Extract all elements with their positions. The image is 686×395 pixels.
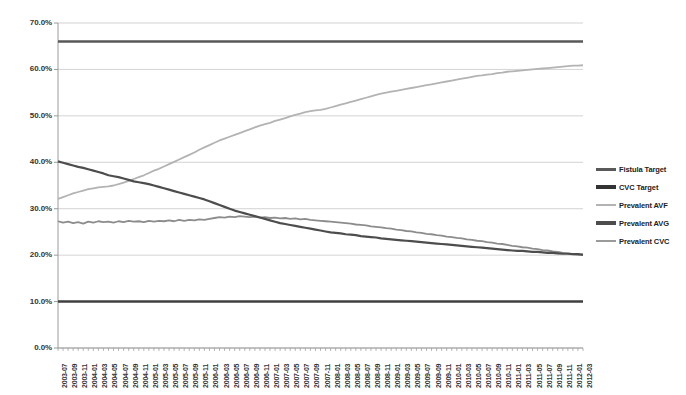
x-tick-label: 2008-05 [354,364,361,388]
legend-item-label: Prevalent AVF [619,201,668,210]
y-tick-label: 60.0% [4,64,52,73]
x-tick-label: 2008-09 [374,364,381,388]
x-tick-label: 2010-11 [505,364,512,388]
legend-item-prevalent-cvc[interactable]: Prevalent CVC [596,232,686,250]
y-tick-label: 70.0% [4,18,52,27]
chart-plot-area [0,0,686,395]
x-tick-label: 2004-01 [91,364,98,388]
x-tick-label: 2007-03 [283,364,290,388]
x-tick-label: 2011-05 [536,364,543,388]
x-tick-label: 2003-09 [71,364,78,388]
legend-item-label: CVC Target [619,183,658,192]
x-tick-label: 2007-01 [273,364,280,388]
x-tick-label: 2009-03 [404,364,411,388]
x-tick-label: 2011-01 [515,364,522,388]
x-tick-label: 2006-09 [253,364,260,388]
x-tick-label: 2004-05 [111,364,118,388]
series-line-prevalent-cvc [58,161,583,254]
x-tick-label: 2005-05 [172,364,179,388]
x-tick-label: 2010-01 [455,364,462,388]
x-tick-label: 2012-01 [576,364,583,388]
x-tick-label: 2007-07 [303,364,310,388]
x-tick-label: 2012-03 [586,364,593,388]
x-tick-label: 2003-07 [61,364,68,388]
x-tick-label: 2006-07 [243,364,250,388]
legend-item-label: Fistula Target [619,165,666,174]
series-line-prevalent-avf [58,65,583,199]
x-tick-label: 2009-07 [424,364,431,388]
chart-legend: Fistula TargetCVC TargetPrevalent AVFPre… [596,160,686,250]
x-tick-label: 2010-09 [495,364,502,388]
legend-item-label: Prevalent CVC [619,237,669,246]
y-tick-label: 20.0% [4,250,52,259]
legend-swatch-icon [596,185,616,188]
legend-item-fistula-target[interactable]: Fistula Target [596,160,686,178]
x-tick-label: 2009-01 [394,364,401,388]
chart-container: 0.0%10.0%20.0%30.0%40.0%50.0%60.0%70.0% … [0,0,686,395]
x-tick-label: 2005-03 [162,364,169,388]
x-tick-label: 2005-09 [192,364,199,388]
x-tick-label: 2006-01 [212,364,219,388]
x-tick-label: 2010-07 [485,364,492,388]
y-tick-label: 0.0% [4,343,52,352]
legend-item-prevalent-avg[interactable]: Prevalent AVG [596,214,686,232]
x-tick-label: 2004-11 [142,364,149,388]
x-tick-label: 2007-05 [293,364,300,388]
x-tick-label: 2005-07 [182,364,189,388]
x-tick-label: 2009-09 [435,364,442,388]
x-tick-label: 2003-11 [81,364,88,388]
x-tick-label: 2006-05 [233,364,240,388]
x-tick-label: 2006-11 [263,364,270,388]
x-tick-label: 2004-03 [101,364,108,388]
y-tick-label: 10.0% [4,297,52,306]
x-tick-label: 2008-03 [344,364,351,388]
legend-swatch-icon [596,168,616,171]
legend-swatch-icon [596,221,616,224]
x-tick-label: 2009-05 [414,364,421,388]
x-tick-label: 2010-03 [465,364,472,388]
y-tick-label: 50.0% [4,111,52,120]
x-tick-label: 2004-07 [122,364,129,388]
x-tick-label: 2008-07 [364,364,371,388]
legend-item-prevalent-avf[interactable]: Prevalent AVF [596,196,686,214]
x-tick-label: 2005-11 [202,364,209,388]
y-tick-label: 30.0% [4,204,52,213]
x-tick-label: 2005-01 [152,364,159,388]
x-tick-label: 2007-11 [324,364,331,388]
x-tick-label: 2010-05 [475,364,482,388]
x-tick-label: 2011-11 [566,364,573,388]
x-tick-label: 2007-09 [313,364,320,388]
x-tick-label: 2008-11 [384,364,391,388]
legend-swatch-icon [596,240,616,243]
x-tick-label: 2009-11 [445,364,452,388]
x-tick-label: 2008-01 [334,364,341,388]
legend-swatch-icon [596,204,616,206]
legend-item-cvc-target[interactable]: CVC Target [596,178,686,196]
x-tick-label: 2004-09 [132,364,139,388]
x-tick-label: 2011-09 [556,364,563,388]
x-tick-label: 2011-07 [546,364,553,388]
y-tick-label: 40.0% [4,157,52,166]
x-tick-label: 2006-03 [223,364,230,388]
legend-item-label: Prevalent AVG [619,219,669,228]
x-tick-label: 2011-03 [525,364,532,388]
